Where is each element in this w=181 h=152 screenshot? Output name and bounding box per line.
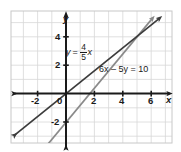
origin-label: 0 — [57, 96, 62, 106]
y-axis-label: y — [63, 14, 68, 24]
x-tick-label-2: 2 — [91, 96, 96, 106]
fraction-four-fifths: 45 — [80, 43, 87, 62]
x-tick-label-6: 6 — [148, 96, 153, 106]
y-tick-label-neg2: -2 — [51, 117, 59, 127]
y-tick-label-2: 2 — [55, 60, 60, 70]
fraction-denominator: 5 — [80, 53, 87, 62]
x-tick-label-4: 4 — [119, 96, 124, 106]
x-axis-label: x — [166, 95, 171, 105]
equation-label-line1-y: y — [66, 47, 71, 57]
equation-label-line1-equals: = — [73, 47, 78, 57]
graph-canvas — [0, 0, 181, 152]
equation-label-line1: y=45x — [66, 43, 92, 62]
equation-label-line1-x: x — [88, 47, 93, 57]
x-tick-label-neg2: -2 — [31, 96, 39, 106]
coordinate-graph-figure: y x 0 -2 2 4 6 4 2 -2 y=45x 6x – 5y = 10 — [0, 0, 181, 152]
fraction-numerator: 4 — [80, 43, 87, 52]
y-tick-label-4: 4 — [55, 32, 60, 42]
equation-label-line2: 6x – 5y = 10 — [99, 65, 148, 74]
